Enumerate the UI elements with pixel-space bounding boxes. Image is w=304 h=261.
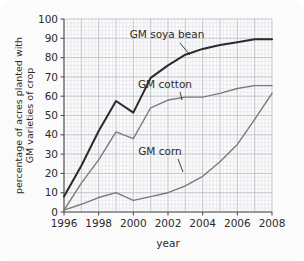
x-axis-tick-label: 1998 [85, 217, 112, 229]
x-axis-tick-label: 2006 [224, 217, 251, 229]
line-chart: 0102030405060708090100 19961998200020022… [0, 0, 304, 261]
y-axis-tick-label: 100 [38, 13, 58, 25]
x-axis-tick-label: 1996 [51, 217, 78, 229]
y-axis-tick-label: 30 [45, 148, 58, 160]
x-axis-tick-label: 2000 [120, 217, 147, 229]
x-axis-tick-label: 2002 [155, 217, 182, 229]
y-axis-tick-label: 50 [45, 109, 58, 121]
y-axis-tick-label: 60 [45, 90, 58, 102]
x-axis-tick-label: 2004 [189, 217, 216, 229]
y-axis-tick-label: 40 [45, 128, 58, 140]
x-axis-title: year [156, 237, 180, 249]
y-axis-tick-label: 90 [45, 32, 58, 44]
y-axis-tick-label: 80 [45, 51, 58, 63]
y-axis-tick-label: 70 [45, 71, 58, 83]
y-axis-title-line1: percentage of acres planted with [13, 37, 24, 194]
y-axis-title-line2: GM varieties of crop [24, 68, 35, 164]
y-axis-tick-label: 0 [51, 206, 58, 218]
series-label-gm-cotton: GM cotton [138, 78, 192, 90]
series-label-gm-corn: GM corn [138, 145, 182, 157]
x-axis-tick-label: 2008 [259, 217, 286, 229]
figure-card: 0102030405060708090100 19961998200020022… [0, 0, 304, 261]
series-label-gm-soya-bean: GM soya bean [130, 28, 205, 40]
y-axis-tick-label: 20 [45, 167, 58, 179]
y-axis-tick-label: 10 [45, 186, 58, 198]
chart-canvas: 0102030405060708090100 19961998200020022… [0, 0, 304, 261]
